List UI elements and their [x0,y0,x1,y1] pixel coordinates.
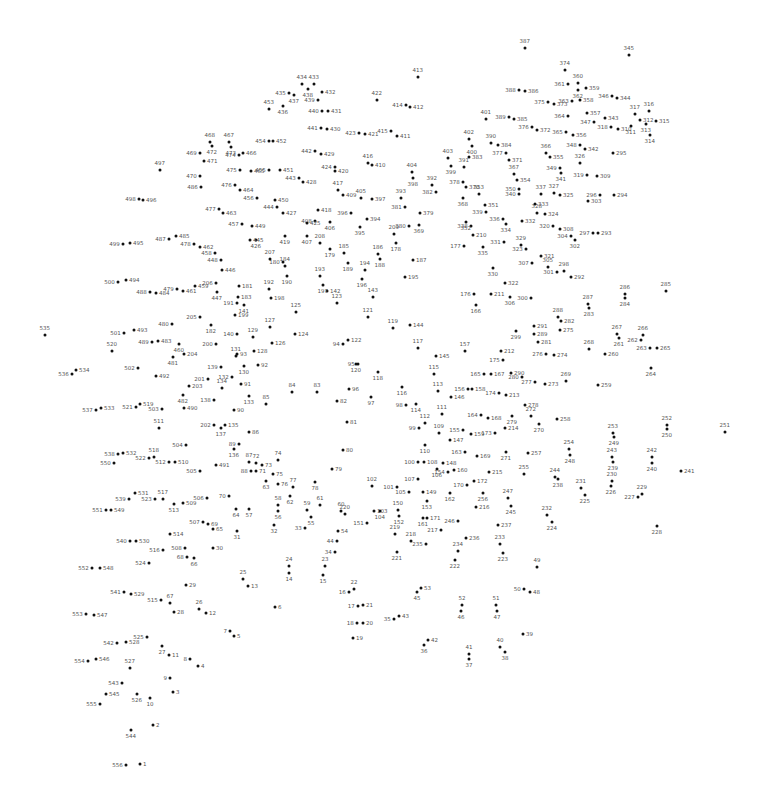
puzzle-dot [321,110,324,113]
puzzle-dot [137,367,140,370]
dot-number-label: 208 [315,233,326,239]
dot-number-label: 324 [548,211,559,217]
dot-number-label: 154 [434,469,445,475]
puzzle-dot [544,383,547,386]
puzzle-dot [425,543,428,546]
dot-number-label: 341 [556,176,567,182]
puzzle-dot [211,145,214,148]
dot-number-label: 294 [617,192,628,198]
puzzle-dot [499,646,502,649]
dot-number-label: 410 [375,162,386,168]
puzzle-dot [628,54,631,57]
dot-number-label: 121 [363,307,374,313]
puzzle-dot [288,92,291,95]
dot-number-label: 237 [501,522,512,528]
dot-number-label: 86 [252,429,259,435]
puzzle-dot [268,169,271,172]
puzzle-dot [213,399,216,402]
dot-number-label: 41 [465,644,472,650]
dot-number-label: 156 [454,386,465,392]
puzzle-dot [319,275,322,278]
puzzle-dot [505,223,508,226]
dot-number-label: 531 [138,490,149,496]
puzzle-dot [169,533,172,536]
puzzle-dot [221,387,224,390]
dot-number-label: 534 [79,367,90,373]
puzzle-dot [524,47,527,50]
dot-number-label: 424 [321,164,332,170]
dot-number-label: 213 [509,392,520,398]
dot-number-label: 427 [286,210,297,216]
dot-number-label: 423 [345,130,356,136]
puzzle-dot [346,421,349,424]
puzzle-dot [537,341,540,344]
puzzle-dot [584,494,587,497]
puzzle-dot [465,221,468,224]
puzzle-dot [396,135,399,138]
dot-number-label: 218 [406,531,417,537]
dot-number-label: 108 [427,459,438,465]
puzzle-dot [544,213,547,216]
dot-number-label: 59 [303,500,310,506]
puzzle-dot [471,145,474,148]
dot-number-label: 321 [544,253,555,259]
dot-number-label: 166 [471,308,482,314]
puzzle-dot [336,302,339,305]
puzzle-dot [169,602,172,605]
puzzle-dot [207,523,210,526]
dot-number-label: 537 [82,407,93,413]
puzzle-dot [371,485,374,488]
puzzle-dot [461,604,464,607]
puzzle-dot [320,153,323,156]
dot-number-label: 450 [278,197,289,203]
dot-number-label: 416 [363,153,374,159]
puzzle-dot [314,150,317,153]
dot-number-label: 202 [200,422,211,428]
puzzle-dot [586,112,589,115]
dot-number-label: 404 [407,162,418,168]
puzzle-dot [233,635,236,638]
dot-number-label: 28 [177,609,184,615]
dot-number-label: 514 [173,531,184,537]
dot-number-label: 76 [281,481,288,487]
dot-number-label: 501 [110,330,121,336]
dot-number-label: 168 [491,415,502,421]
dot-to-dot-canvas: 1234567891011121314151617181920212223242… [0,0,773,797]
puzzle-dot [379,510,382,513]
puzzle-dot [212,547,215,550]
puzzle-dot [172,356,175,359]
dot-number-label: 462 [203,244,214,250]
dot-number-label: 172 [477,478,488,484]
dot-number-label: 428 [306,179,317,185]
dot-number-label: 314 [645,138,656,144]
puzzle-dot [574,239,577,242]
puzzle-dot [533,325,536,328]
puzzle-dot [404,276,407,279]
puzzle-dot [462,429,465,432]
dot-number-label: 463 [226,210,237,216]
puzzle-dot [531,262,534,265]
puzzle-dot [342,449,345,452]
dot-number-label: 177 [450,243,461,249]
dot-number-label: 508 [171,545,182,551]
puzzle-dot [397,509,400,512]
dot-number-label: 115 [429,364,440,370]
puzzle-dot [577,82,580,85]
dot-number-label: 183 [241,294,252,300]
puzzle-dot [233,448,236,451]
puzzle-dot [502,218,505,221]
puzzle-dot [487,417,490,420]
puzzle-dot [473,293,476,296]
puzzle-dot [559,167,562,170]
dot-number-label: 511 [154,418,165,424]
dot-number-label: 323 [512,246,523,252]
puzzle-dot [504,651,507,654]
puzzle-dot [579,162,582,165]
dot-number-label: 265 [660,345,671,351]
dot-number-label: 55 [307,520,314,526]
dot-number-label: 538 [104,451,115,457]
dot-number-label: 375 [534,99,545,105]
dot-number-label: 429 [324,151,335,157]
puzzle-dot [651,462,654,465]
puzzle-dot [218,208,221,211]
